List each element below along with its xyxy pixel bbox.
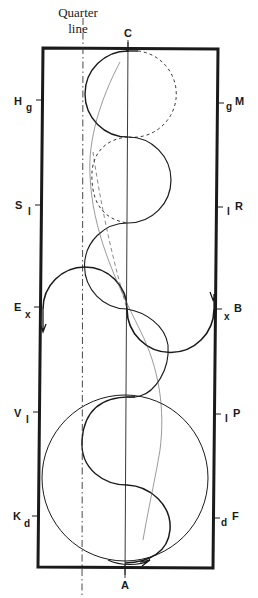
serpentine-loop-1-solid bbox=[85, 51, 128, 137]
marker-C: C bbox=[124, 28, 132, 39]
circle-lower-X bbox=[127, 309, 168, 397]
quarter-line bbox=[82, 18, 83, 598]
marker-V-sub: I bbox=[26, 415, 29, 425]
marker-V: V bbox=[14, 408, 21, 419]
marker-F: F bbox=[232, 511, 239, 522]
marker-S: S bbox=[15, 200, 22, 211]
marker-B-sub: x bbox=[224, 312, 230, 322]
marker-S-sub: I bbox=[28, 207, 31, 217]
marker-H-sub: g bbox=[26, 103, 32, 113]
serpentine-loop-3 bbox=[85, 223, 128, 309]
dressage-arena-diagram bbox=[0, 0, 258, 598]
marker-F-sub: d bbox=[221, 518, 227, 528]
serpentine-loop-2-solid bbox=[128, 137, 171, 223]
s-curve-left bbox=[82, 397, 135, 485]
marker-M-sub: g bbox=[226, 102, 232, 112]
marker-H: H bbox=[14, 96, 22, 107]
marker-P: P bbox=[233, 408, 240, 419]
quarter-line-label-line1: Quarter bbox=[48, 5, 108, 20]
marker-P-sub: I bbox=[225, 414, 228, 424]
marker-K-sub: d bbox=[24, 519, 30, 529]
marker-K: K bbox=[13, 511, 21, 522]
marker-R: R bbox=[235, 201, 243, 212]
diagonal-track-dashed bbox=[93, 152, 127, 309]
marker-E: E bbox=[14, 302, 21, 313]
quarter-line-label-line2: line bbox=[48, 21, 108, 36]
marker-B: B bbox=[234, 303, 242, 314]
serpentine-loop-1-dashed bbox=[128, 51, 176, 137]
marker-R-sub: I bbox=[227, 207, 230, 217]
marker-E-sub: x bbox=[25, 310, 31, 320]
marker-A: A bbox=[121, 580, 129, 591]
arena-boundary bbox=[38, 48, 218, 568]
marker-M: M bbox=[235, 96, 244, 107]
